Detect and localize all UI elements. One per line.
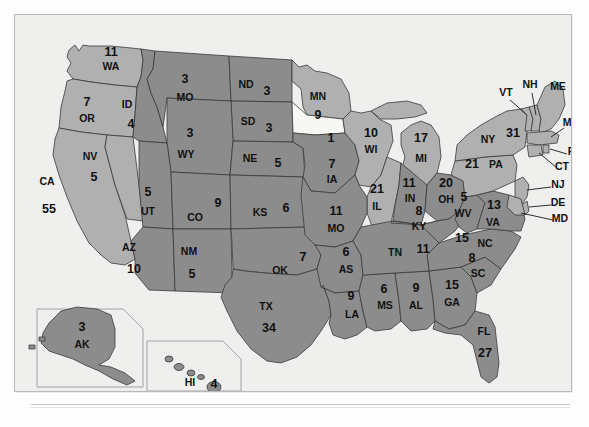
state-abbr-KS: KS (253, 206, 268, 218)
callout-abbr-ME: ME (550, 80, 566, 92)
horizontal-divider-shadow (31, 407, 570, 408)
state-votes-IA: 7 (329, 157, 336, 171)
state-abbr-MI: MI (415, 152, 427, 164)
state-abbr-TN: TN (388, 246, 402, 258)
state-abbr-NM: NM (181, 245, 198, 257)
state-abbr-FL: FL (478, 325, 491, 337)
state-votes-TX: 34 (262, 321, 276, 335)
state-abbr-TX: TX (259, 300, 272, 312)
state-abbr-WY: WY (178, 148, 195, 160)
state-abbr-WA: WA (103, 60, 120, 72)
state-shape-TX[interactable] (221, 269, 331, 363)
state-abbr-MS: MS (377, 299, 393, 311)
state-abbr-SC: SC (471, 267, 486, 279)
state-abbr-ID: ID (122, 98, 133, 110)
state-votes-CO: 9 (215, 196, 222, 210)
state-votes-AK: 3 (79, 320, 86, 334)
callout-abbr-RI: RI (568, 145, 571, 157)
state-abbr-OR: OR (79, 112, 95, 124)
state-votes-UT: 5 (145, 185, 152, 199)
leader-line-MD (521, 213, 553, 220)
state-abbr-AZ: AZ (122, 241, 137, 253)
state-votes-MI: 17 (414, 131, 428, 145)
horizontal-divider (31, 404, 570, 405)
callout-abbr-NJ: NJ (551, 178, 565, 190)
state-votes-AZ: 10 (127, 262, 141, 276)
state-votes-NM: 5 (189, 267, 196, 281)
state-votes-HI: 4 (211, 377, 218, 391)
us-electoral-map: WA11OR7CA55NV5ID4MO3ND3SD3WY3NE5UT5CO9KS… (15, 15, 571, 391)
state-abbr-NC: NC (477, 237, 493, 249)
state-abbr-CA: CA (39, 175, 55, 187)
state-shape-WY[interactable] (167, 98, 233, 175)
state-votes-MO: 11 (329, 204, 342, 218)
state-votes-NV: 5 (91, 170, 98, 184)
state-abbr-KY: KY (412, 220, 427, 232)
state-votes-NE: 5 (275, 156, 282, 170)
state-shape-MI_upper[interactable] (371, 101, 427, 119)
state-abbr-LA: LA (345, 308, 359, 320)
state-votes-MN: 9 (315, 108, 322, 122)
state-votes-VA: 13 (487, 198, 501, 212)
state-votes-IL: 21 (370, 182, 384, 196)
state-abbr-VA: VA (486, 216, 500, 228)
state-shape-AZ[interactable] (131, 227, 175, 291)
state-votes-SC: 8 (469, 251, 476, 265)
leader-line-RI (550, 149, 567, 154)
state-abbr-CO: CO (187, 211, 203, 223)
state-abbr-ND: ND (238, 78, 254, 90)
state-abbr-HI: HI (185, 376, 196, 388)
state-abbr-IA: IA (327, 173, 338, 185)
state-votes-OK: 7 (300, 250, 307, 264)
state-abbr-WV: WV (455, 207, 472, 219)
state-abbr-OK: OK (272, 264, 288, 276)
state-abbr-NE: NE (243, 152, 258, 164)
state-votes-WI: 10 (364, 126, 378, 140)
state-votes-TN: 11 (416, 242, 429, 256)
leader-line-DE (529, 205, 551, 207)
state-votes-OR: 7 (84, 95, 91, 109)
callout-abbr-DE: DE (551, 196, 566, 208)
state-votes-NC: 15 (455, 231, 469, 245)
state-votes-LA: 9 (348, 289, 355, 303)
state-shape-RI[interactable] (543, 145, 549, 153)
state-abbr-OH: OH (438, 193, 454, 205)
state-votes-OH: 20 (439, 176, 453, 190)
state-votes-KS: 6 (283, 201, 290, 215)
state-abbr-UT: UT (141, 205, 156, 217)
state-votes-CA: 55 (42, 202, 56, 216)
callout-abbr-MA: MA (563, 116, 571, 128)
state-abbr-NV: NV (83, 150, 98, 162)
state-votes-ID: 4 (128, 117, 135, 131)
state-abbr-MT: MO (177, 91, 194, 103)
state-abbr-IN: IN (405, 192, 416, 204)
state-abbr-NY: NY (481, 133, 496, 145)
leader-line-NJ (527, 187, 551, 190)
state-abbr-PA: PA (489, 158, 503, 170)
callout-abbr-NH: NH (522, 78, 537, 90)
state-votes-ND: 3 (264, 84, 271, 98)
state-votes-SD: 3 (266, 121, 273, 135)
leader-line-CT (539, 153, 556, 167)
state-votes-KY: 8 (416, 204, 423, 218)
state-abbr-GA: GA (444, 296, 460, 308)
state-votes-MS: 6 (381, 282, 388, 296)
state-votes-AR: 6 (343, 245, 350, 259)
state-abbr-MO: MO (328, 222, 345, 234)
state-votes-FL: 27 (478, 346, 492, 360)
state-shape-NM[interactable] (173, 229, 232, 293)
callout-abbr-MD: MD (552, 212, 569, 224)
page-root: WA11OR7CA55NV5ID4MO3ND3SD3WY3NE5UT5CO9KS… (0, 0, 589, 427)
state-votes-GA: 15 (445, 278, 459, 292)
state-abbr-AR: AS (339, 263, 354, 275)
state-votes-WA: 11 (104, 45, 117, 59)
state-shape-NE[interactable] (230, 141, 305, 177)
state-abbr-SD: SD (241, 115, 256, 127)
state-shape-CT[interactable] (527, 145, 543, 157)
state-votes-WV: 5 (461, 190, 468, 204)
callout-abbr-VT: VT (499, 86, 513, 98)
state-shape-KS[interactable] (230, 175, 307, 229)
state-shape-MA[interactable] (527, 131, 559, 145)
state-votes-WY: 3 (187, 126, 194, 140)
state-votes-MT: 3 (182, 72, 189, 86)
